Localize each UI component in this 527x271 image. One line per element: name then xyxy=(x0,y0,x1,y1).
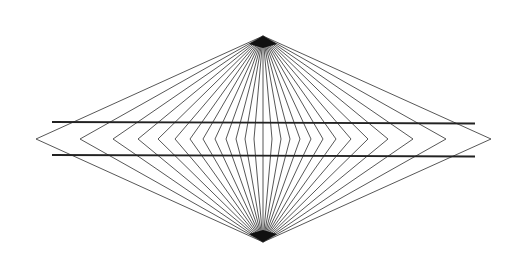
hering-illusion-figure xyxy=(0,0,527,271)
